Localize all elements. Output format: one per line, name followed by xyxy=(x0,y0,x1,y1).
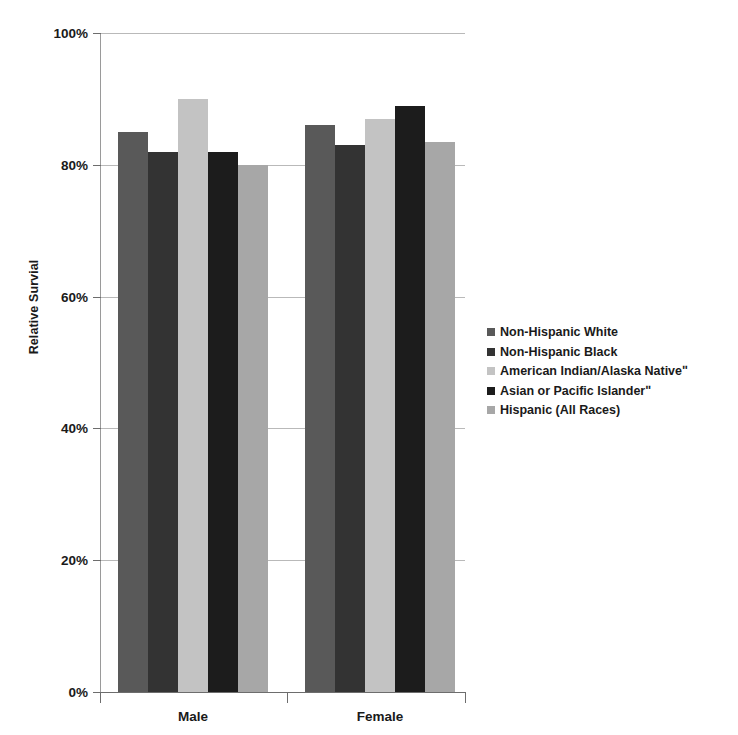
y-tick-mark xyxy=(93,560,101,561)
x-axis-label: Female xyxy=(357,709,404,724)
y-tick-mark xyxy=(93,33,101,34)
bar xyxy=(425,142,455,692)
bar-group-male xyxy=(118,33,268,692)
bar xyxy=(238,165,268,692)
legend: Non-Hispanic WhiteNon-Hispanic BlackAmer… xyxy=(487,325,688,417)
legend-item[interactable]: Non-Hispanic White xyxy=(487,325,688,339)
legend-label: Non-Hispanic Black xyxy=(500,345,617,359)
y-tick-mark xyxy=(93,428,101,429)
category-separator xyxy=(465,692,466,703)
plot-area: 100%80%60%40%20%0% MaleFemale xyxy=(100,33,465,692)
x-axis-line xyxy=(100,692,465,693)
legend-swatch-icon xyxy=(487,367,495,375)
y-tick-label: 80% xyxy=(61,157,88,172)
legend-item[interactable]: Hispanic (All Races) xyxy=(487,403,688,417)
y-tick-mark xyxy=(93,297,101,298)
y-tick-label: 100% xyxy=(53,26,88,41)
bar xyxy=(148,152,178,692)
legend-label: Non-Hispanic White xyxy=(500,325,618,339)
legend-label: Asian or Pacific Islanderʺ xyxy=(500,384,651,398)
bar xyxy=(118,132,148,692)
legend-item[interactable]: American Indian/Alaska Nativeʺ xyxy=(487,364,688,378)
y-tick-label: 60% xyxy=(61,289,88,304)
y-tick-label: 20% xyxy=(61,553,88,568)
bar-chart: Relative Survial 100%80%60%40%20%0% Male… xyxy=(0,0,738,735)
category-separator xyxy=(100,692,101,703)
y-tick-label: 0% xyxy=(68,685,88,700)
legend-label: Hispanic (All Races) xyxy=(500,403,620,417)
bar xyxy=(365,119,395,692)
y-axis-line xyxy=(100,33,101,692)
legend-swatch-icon xyxy=(487,328,495,336)
y-axis-title: Relative Survial xyxy=(27,227,41,387)
bar xyxy=(395,106,425,693)
bar xyxy=(305,125,335,692)
legend-swatch-icon xyxy=(487,387,495,395)
bar xyxy=(178,99,208,692)
legend-swatch-icon xyxy=(487,348,495,356)
x-axis-label: Male xyxy=(178,709,208,724)
bar xyxy=(208,152,238,692)
legend-item[interactable]: Asian or Pacific Islanderʺ xyxy=(487,384,688,398)
y-tick-mark xyxy=(93,165,101,166)
legend-swatch-icon xyxy=(487,406,495,414)
y-tick-label: 40% xyxy=(61,421,88,436)
legend-label: American Indian/Alaska Nativeʺ xyxy=(500,364,688,378)
bar-group-female xyxy=(305,33,455,692)
bar xyxy=(335,145,365,692)
category-separator xyxy=(287,692,288,703)
legend-item[interactable]: Non-Hispanic Black xyxy=(487,345,688,359)
